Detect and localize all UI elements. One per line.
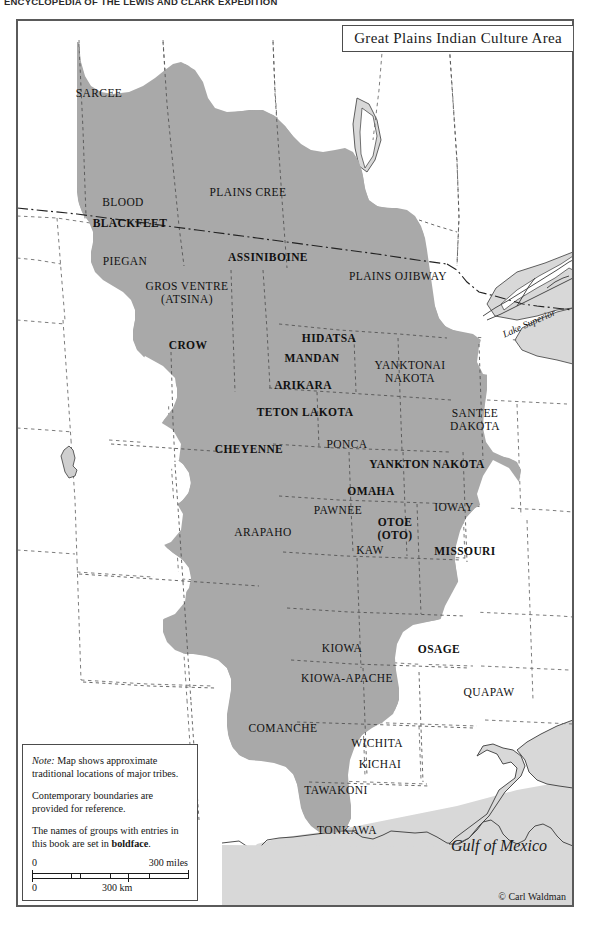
- tribe-label-line: ARIKARA: [274, 379, 332, 392]
- tribe-label-line: OMAHA: [347, 485, 394, 498]
- scale-km-tick-2: [128, 874, 129, 882]
- scale-km-zero: 0: [32, 882, 37, 893]
- tribe-label-line: KIOWA: [322, 642, 362, 655]
- tribe-label-line: GROS VENTRE: [145, 280, 228, 293]
- running-header-text: ENCYCLOPEDIA OF THE LEWIS AND CLARK EXPE…: [0, 0, 589, 8]
- tribe-label-line: WICHITA: [351, 737, 403, 750]
- tribe-label-line: SANTEE: [450, 407, 500, 420]
- tribe-label-line: COMANCHE: [248, 722, 317, 735]
- tribe-label: CROW: [169, 339, 208, 352]
- tribe-label-line: NAKOTA: [374, 372, 445, 385]
- tribe-label-line: QUAPAW: [464, 686, 515, 699]
- label-gulf-of-mexico: Gulf of Mexico: [451, 837, 547, 855]
- tribe-label: MISSOURI: [434, 545, 495, 558]
- tribe-label: YANKTON NAKOTA: [369, 458, 485, 471]
- tribe-label: ARIKARA: [274, 379, 332, 392]
- map-legend: Note: Map shows approximate traditional …: [22, 744, 198, 901]
- great-salt-lake: [61, 446, 77, 478]
- scale-km-numbers: 0 300 km: [32, 882, 188, 894]
- tribe-label-line: KAW: [356, 544, 384, 557]
- tribe-label: KIOWA: [322, 642, 362, 655]
- tribe-label-line: MISSOURI: [434, 545, 495, 558]
- tribe-label: QUAPAW: [464, 686, 515, 699]
- tribe-label-line: SARCEE: [76, 87, 123, 100]
- tribe-label-line: PLAINS CREE: [210, 186, 287, 199]
- tribe-label: BLOOD: [102, 196, 144, 209]
- tribe-label-line: (OTO): [377, 529, 412, 542]
- tribe-label: PLAINS CREE: [210, 186, 287, 199]
- tribe-label-line: BLACKFEET: [93, 217, 168, 230]
- tribe-label-line: PLAINS OJIBWAY: [349, 270, 447, 283]
- tribe-label-line: YANKTONAI: [374, 359, 445, 372]
- tribe-label: ASSINIBOINE: [228, 251, 308, 264]
- tribe-label-line: ARAPAHO: [234, 526, 291, 539]
- tribe-label-line: ASSINIBOINE: [228, 251, 308, 264]
- legend-note-text: Map shows approximate traditional locati…: [32, 755, 178, 779]
- tribe-label: HIDATSA: [302, 332, 356, 345]
- tribe-label-line: TAWAKONI: [304, 784, 367, 797]
- tribe-label: COMANCHE: [248, 722, 317, 735]
- scale-miles-numbers: 0 300 miles: [32, 857, 188, 869]
- tribe-label: SANTEEDAKOTA: [450, 407, 500, 433]
- legend-note-line: Note: Map shows approximate traditional …: [32, 754, 188, 780]
- map-title: Great Plains Indian Culture Area: [354, 30, 562, 46]
- tribe-label-line: (ATSINA): [145, 293, 228, 306]
- tribe-label-line: TONKAWA: [317, 824, 377, 837]
- tribe-label: OTOE(OTO): [377, 516, 412, 542]
- map-title-box: Great Plains Indian Culture Area: [342, 25, 574, 52]
- tribe-label-line: PIEGAN: [103, 255, 148, 268]
- scale-miles-zero: 0: [32, 857, 37, 868]
- tribe-label-line: MANDAN: [285, 352, 340, 365]
- tribe-label: TETON LAKOTA: [257, 406, 354, 419]
- tribe-label: MANDAN: [285, 352, 340, 365]
- tribe-label: KICHAI: [359, 758, 402, 771]
- tribe-label: ARAPAHO: [234, 526, 291, 539]
- tribe-label: CHEYENNE: [215, 443, 283, 456]
- tribe-label-line: PAWNEE: [314, 504, 362, 517]
- tribe-label-line: CHEYENNE: [215, 443, 283, 456]
- tribe-label-line: HIDATSA: [302, 332, 356, 345]
- tribe-label: PONCA: [327, 438, 368, 451]
- tribe-label-line: OTOE: [377, 516, 412, 529]
- tribe-label-line: PONCA: [327, 438, 368, 451]
- tribe-label-line: KICHAI: [359, 758, 402, 771]
- tribe-label: PLAINS OJIBWAY: [349, 270, 447, 283]
- legend-boldface-line: The names of groups with entries in this…: [32, 824, 188, 850]
- legend-boldface-suffix: .: [148, 838, 151, 849]
- tribe-label: OSAGE: [418, 643, 460, 656]
- tribe-label: KIOWA-APACHE: [301, 672, 393, 685]
- copyright-notice: © Carl Waldman: [498, 891, 566, 902]
- legend-note-word: Note:: [32, 755, 55, 766]
- legend-boldface-prefix: The names of groups with entries in this…: [32, 825, 179, 849]
- tribe-label: PAWNEE: [314, 504, 362, 517]
- tribe-label-line: BLOOD: [102, 196, 144, 209]
- tribe-label: TONKAWA: [317, 824, 377, 837]
- tribe-label: WICHITA: [351, 737, 403, 750]
- scale-km-mid: 300 km: [102, 882, 132, 893]
- tribe-label-line: YANKTON NAKOTA: [369, 458, 485, 471]
- tribe-label-line: TETON LAKOTA: [257, 406, 354, 419]
- map-frame: Great Plains Indian Culture Area SARCEEP…: [16, 19, 574, 907]
- tribe-label: OMAHA: [347, 485, 394, 498]
- tribe-label-line: CROW: [169, 339, 208, 352]
- legend-boldface-word: boldface: [112, 838, 149, 849]
- tribe-label-line: IOWAY: [434, 501, 473, 514]
- running-header: ENCYCLOPEDIA OF THE LEWIS AND CLARK EXPE…: [0, 0, 589, 10]
- scale-km-rule: [32, 873, 189, 882]
- tribe-label: IOWAY: [434, 501, 473, 514]
- tribe-label: KAW: [356, 544, 384, 557]
- tribe-label: BLACKFEET: [93, 217, 168, 230]
- tribe-label: PIEGAN: [103, 255, 148, 268]
- tribe-label: GROS VENTRE(ATSINA): [145, 280, 228, 306]
- tribe-label: YANKTONAINAKOTA: [374, 359, 445, 385]
- tribe-label-line: DAKOTA: [450, 420, 500, 433]
- tribe-label: TAWAKONI: [304, 784, 367, 797]
- tribe-label-line: KIOWA-APACHE: [301, 672, 393, 685]
- scale-bar-km: 0 300 km: [32, 873, 188, 893]
- tribe-label-line: OSAGE: [418, 643, 460, 656]
- scale-miles-max: 300 miles: [149, 857, 188, 868]
- tribe-label: SARCEE: [76, 87, 123, 100]
- legend-boundaries-line: Contemporary boundaries are provided for…: [32, 789, 188, 815]
- scale-km-tick-0: [32, 874, 33, 882]
- scale-km-tick-1: [80, 874, 81, 879]
